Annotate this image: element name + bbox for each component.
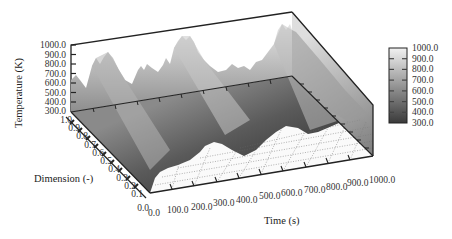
svg-text:100.0: 100.0: [167, 205, 189, 215]
svg-text:1000.0: 1000.0: [40, 40, 66, 50]
svg-text:200.0: 200.0: [191, 202, 213, 212]
dimension-axis-label: Dimension (-): [34, 173, 94, 185]
svg-text:400.0: 400.0: [236, 195, 258, 205]
svg-text:500.0: 500.0: [259, 191, 281, 201]
svg-text:0.0: 0.0: [148, 208, 160, 218]
svg-text:500.0: 500.0: [412, 97, 434, 107]
svg-text:600.0: 600.0: [412, 86, 434, 96]
svg-text:0.1: 0.1: [131, 189, 143, 199]
svg-text:900.0: 900.0: [45, 50, 67, 60]
surface-chart: Temperature (K) 1000.0 900.0 800.0 700.0…: [0, 0, 452, 239]
svg-text:600.0: 600.0: [281, 188, 303, 198]
colorbar-tick-labels: 1000.0 900.0 800.0 700.0 600.0 500.0 400…: [412, 43, 438, 128]
svg-text:300.0: 300.0: [412, 118, 434, 128]
svg-text:700.0: 700.0: [304, 185, 326, 195]
svg-text:800.0: 800.0: [45, 59, 67, 69]
z-tick-labels: 1000.0 900.0 800.0 700.0 600.0 500.0 400…: [40, 40, 66, 116]
z-axis-label: Temperature (K): [13, 57, 25, 128]
colorbar: 1000.0 900.0 800.0 700.0 600.0 500.0 400…: [389, 43, 438, 128]
time-axis-label: Time (s): [264, 215, 300, 227]
svg-text:1000.0: 1000.0: [412, 43, 438, 53]
svg-text:400.0: 400.0: [412, 107, 434, 117]
svg-text:800.0: 800.0: [412, 64, 434, 74]
svg-text:700.0: 700.0: [45, 69, 67, 79]
svg-text:300.0: 300.0: [213, 198, 235, 208]
svg-text:800.0: 800.0: [326, 182, 348, 192]
svg-text:700.0: 700.0: [412, 75, 434, 85]
svg-text:900.0: 900.0: [412, 54, 434, 64]
svg-text:500.0: 500.0: [45, 88, 67, 98]
svg-text:1000.0: 1000.0: [369, 175, 395, 185]
svg-text:900.0: 900.0: [347, 178, 369, 188]
svg-text:600.0: 600.0: [45, 78, 67, 88]
